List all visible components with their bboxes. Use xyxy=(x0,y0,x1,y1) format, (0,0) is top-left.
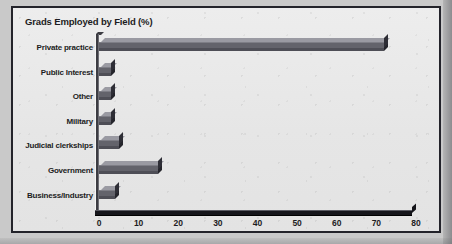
category-label: Military xyxy=(17,116,93,125)
bar-front-face xyxy=(99,91,111,100)
bar xyxy=(99,38,389,51)
x-tick-label: 50 xyxy=(292,218,301,228)
bar-side-face xyxy=(111,108,115,125)
bar-front-face xyxy=(99,140,119,149)
y-axis-category-labels: Private practicePublic InterestOtherMili… xyxy=(13,32,93,210)
bar-side-face xyxy=(115,182,119,199)
bar-front-face xyxy=(99,67,111,76)
x-tick-label: 80 xyxy=(411,218,420,228)
bar xyxy=(99,161,163,174)
bar xyxy=(99,87,116,100)
x-tick-label: 10 xyxy=(134,218,143,228)
x-tick-label: 70 xyxy=(372,218,381,228)
bar xyxy=(99,186,120,199)
x-axis-end-cap xyxy=(412,203,416,213)
x-tick-label: 60 xyxy=(332,218,341,228)
bar-front-face xyxy=(99,42,384,51)
category-label: Judicial clerkships xyxy=(17,141,93,150)
chart-figure: Grads Employed by Field (%) Private prac… xyxy=(0,0,452,244)
category-label: Government xyxy=(17,166,93,175)
category-label: Public Interest xyxy=(17,67,93,76)
x-tick-label: 40 xyxy=(253,218,262,228)
category-label: Business/Industry xyxy=(17,190,93,199)
bar xyxy=(99,63,116,76)
category-label: Other xyxy=(17,92,93,101)
bar-side-face xyxy=(158,157,162,174)
x-tick-label: 30 xyxy=(213,218,222,228)
scan-edge-shadow-right xyxy=(443,0,452,244)
bar-front-face xyxy=(99,116,111,125)
scan-edge-shadow-bottom xyxy=(0,238,452,244)
bar xyxy=(99,136,124,149)
bar-front-face xyxy=(99,165,158,174)
x-axis-tick-labels: 01020304050607080 xyxy=(13,218,443,234)
bar-side-face xyxy=(111,59,115,76)
bar-side-face xyxy=(384,34,388,51)
x-tick-label: 0 xyxy=(97,218,102,228)
bar-series xyxy=(99,32,429,210)
plot-area: Private practicePublic InterestOtherMili… xyxy=(13,32,443,235)
bar xyxy=(99,112,116,125)
x-tick-label: 20 xyxy=(174,218,183,228)
category-label: Private practice xyxy=(17,43,93,52)
bar-side-face xyxy=(111,83,115,100)
bar-side-face xyxy=(119,132,123,149)
chart-frame: Grads Employed by Field (%) Private prac… xyxy=(11,6,441,233)
bar-front-face xyxy=(99,190,115,199)
chart-title: Grads Employed by Field (%) xyxy=(25,16,152,27)
x-axis-line xyxy=(95,210,412,216)
